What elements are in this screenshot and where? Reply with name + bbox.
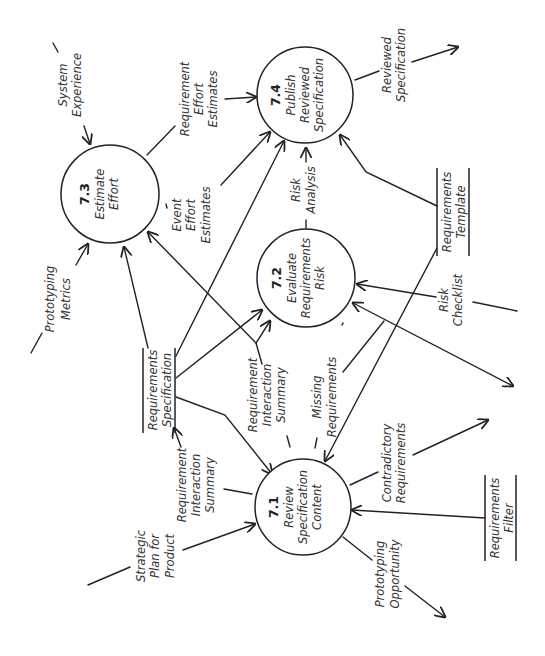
svg-text:Requirement: Requirement — [246, 357, 260, 432]
store-label-line1: Requirements — [146, 350, 160, 431]
flow-label-missing-requirements: Missing Requirements — [310, 357, 339, 438]
process-label-line2: Specification — [296, 470, 310, 544]
flow-label-strategic-plan: Strategic Plan for Product — [134, 529, 177, 582]
process-7-3: 7.3 Estimate Effort — [61, 145, 159, 243]
flow-arrow-event-effort-est — [221, 132, 270, 185]
flow-line-strategic-plan-tail — [88, 567, 130, 585]
flow-label-event-effort-estimates: Event Effort Estimates — [170, 187, 213, 244]
flow-arrow-reviewed-spec — [412, 47, 458, 62]
flow-arrow-strategic-plan — [183, 524, 255, 550]
svg-text:Requirement: Requirement — [178, 61, 192, 136]
flow-line-event-effort-tick — [166, 204, 167, 208]
process-number: 7.1 — [266, 496, 281, 518]
process-label-line3: Specification — [312, 58, 326, 132]
flow-line-risk-checklist-tail — [473, 302, 517, 311]
process-label-line1: Evaluate — [285, 253, 299, 303]
flow-line-missing-req-tail — [343, 321, 384, 372]
svg-text:Event: Event — [170, 198, 184, 231]
svg-text:Contradictory: Contradictory — [380, 424, 394, 503]
svg-text:Specification: Specification — [394, 28, 408, 102]
process-label-line1: Estimate — [93, 169, 107, 220]
process-label-line1: Publish — [284, 74, 298, 115]
flow-line-ris-b-tail — [224, 489, 252, 494]
process-number: 7.2 — [269, 267, 284, 289]
process-label-line3: Content — [310, 484, 324, 530]
flow-arrow-risk-checklist — [357, 284, 436, 297]
flow-line-missing-req-tick — [315, 438, 317, 448]
flow-label-system-experience: System Experience — [56, 53, 84, 117]
svg-text:Requirement: Requirement — [175, 447, 189, 522]
flow-arrow-proto-opp — [405, 586, 445, 617]
flow-arrow-req-effort-est — [225, 97, 256, 99]
flow-arrow-contradictory — [413, 420, 488, 455]
svg-text:Effort: Effort — [192, 83, 206, 115]
flow-arrow-reqspec-to-7-3 — [124, 247, 148, 348]
flow-arrow-template-to-7-4 — [340, 135, 437, 206]
flow-label-contradictory-requirements: Contradictory Requirements — [380, 423, 408, 504]
flow-label-prototyping-metrics: Prototyping Metrics — [43, 266, 73, 333]
process-7-4: 7.4 Publish Reviewed Specification — [257, 47, 353, 143]
flow-line-req-effort-est — [147, 126, 175, 155]
flow-label-requirement-effort-estimates: Requirement Effort Estimates — [178, 61, 220, 136]
process-label-line1: Review — [282, 486, 296, 528]
store-label-line1: Requirements — [488, 478, 502, 559]
store-label-line2: Filter — [502, 502, 516, 533]
flow-arrow-prototyping-metrics — [76, 244, 88, 265]
svg-text:Missing: Missing — [310, 376, 324, 419]
flow-arrow-7-2-bidirectional — [353, 303, 513, 386]
flow-line-system-experience-tail — [53, 43, 58, 52]
process-label-line2: Reviewed — [298, 66, 312, 123]
svg-text:Analysis: Analysis — [304, 166, 318, 214]
flow-label-risk-checklist: Risk Checklist — [437, 273, 465, 326]
svg-text:Requirements: Requirements — [394, 423, 408, 504]
svg-text:Prototyping: Prototyping — [373, 541, 387, 608]
process-label-line3: Risk — [313, 265, 327, 290]
process-7-1: 7.1 Review Specification Content — [255, 459, 351, 555]
process-7-2: 7.2 Evaluate Requirements Risk — [257, 229, 355, 327]
svg-text:Risk: Risk — [289, 177, 303, 202]
svg-text:Interaction: Interaction — [189, 454, 203, 516]
flow-label-requirement-interaction-summary-a: Requirement Interaction Summary — [246, 357, 288, 432]
svg-text:Summary: Summary — [203, 457, 217, 513]
svg-text:Product: Product — [163, 533, 177, 578]
svg-text:Estimates: Estimates — [206, 71, 220, 128]
flow-arrow-ris-to-7-2 — [256, 321, 270, 364]
process-label-line2: Effort — [107, 178, 121, 210]
svg-text:Risk: Risk — [437, 287, 451, 312]
flow-arrow-ris-to-7-3 — [148, 232, 256, 343]
svg-text:Interaction: Interaction — [260, 364, 274, 426]
flow-arrow-system-experience — [84, 126, 90, 144]
svg-text:Plan for: Plan for — [148, 533, 162, 578]
data-store-requirements-filter: Requirements Filter — [485, 475, 516, 561]
flow-label-requirement-interaction-summary-b: Requirement Interaction Summary — [175, 447, 217, 522]
flow-line-missing-req-a — [342, 323, 343, 325]
process-number: 7.4 — [268, 84, 283, 106]
flow-line-proto-opp-tail — [343, 537, 372, 560]
svg-text:Experience: Experience — [70, 53, 84, 117]
flow-label-prototyping-opportunity: Prototyping Opportunity — [373, 539, 402, 608]
svg-text:Prototyping: Prototyping — [43, 266, 57, 333]
svg-text:Effort: Effort — [184, 199, 198, 231]
svg-text:Reviewed: Reviewed — [380, 36, 394, 93]
flow-line-ris-a-from-7-1 — [287, 436, 290, 447]
data-store-requirements-template: Requirements Template — [437, 168, 469, 256]
store-label-line1: Requirements — [440, 172, 454, 253]
svg-text:Metrics: Metrics — [59, 278, 73, 320]
svg-text:Summary: Summary — [274, 367, 288, 423]
store-label-line2: Specification — [160, 353, 174, 427]
data-flow-diagram: Requirements Specification Requirements … — [0, 0, 545, 656]
store-label-line2: Template — [454, 185, 468, 238]
svg-text:Estimates: Estimates — [199, 187, 213, 244]
flow-label-risk-analysis: Risk Analysis — [289, 166, 318, 214]
flow-label-reviewed-specification: Reviewed Specification — [380, 28, 408, 102]
svg-text:Requirements: Requirements — [325, 357, 339, 438]
flow-line-prototyping-metrics-tail — [31, 333, 42, 353]
flow-line-contradictory-tail — [350, 472, 378, 485]
flow-arrow-filter-to-7-1 — [352, 510, 485, 518]
svg-text:Opportunity: Opportunity — [388, 539, 402, 608]
flow-line-reviewed-spec-tail — [355, 71, 379, 80]
svg-text:Strategic: Strategic — [134, 529, 148, 582]
process-number: 7.3 — [77, 183, 92, 205]
svg-text:Checklist: Checklist — [451, 273, 465, 326]
process-label-line2: Requirements — [299, 238, 313, 319]
